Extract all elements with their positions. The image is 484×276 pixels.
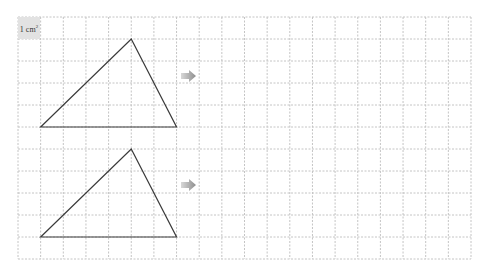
unit-label-sup: 2 <box>36 24 39 29</box>
arrow-top-icon <box>181 70 196 82</box>
grid-diagram <box>0 0 484 276</box>
unit-label: 1 cm2 <box>18 17 40 39</box>
arrow-bottom-icon <box>181 179 196 191</box>
unit-label-text: 1 cm <box>20 25 36 34</box>
